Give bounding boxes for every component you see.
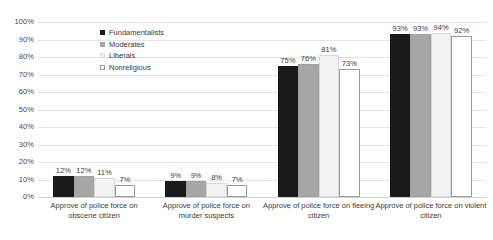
y-axis-tick: 80% [19, 53, 34, 61]
chart-legend: FundamentalistsModeratesLiberalsNonrelig… [100, 27, 210, 73]
bar-column: 12% [74, 22, 95, 197]
y-axis-tick: 60% [19, 88, 34, 96]
bar-liberals[interactable] [431, 33, 452, 198]
bar-column: 76% [298, 22, 319, 197]
bar-value-label: 93% [413, 24, 428, 33]
bar-column: 7% [227, 22, 248, 197]
legend-item-label: Fundamentalists [109, 28, 164, 37]
legend-swatch-icon [100, 30, 105, 35]
y-axis-tick: 70% [19, 71, 34, 79]
bar-liberals[interactable] [94, 178, 115, 197]
bar-value-label: 12% [56, 166, 71, 175]
y-axis-tick: 100% [14, 18, 34, 26]
bar-column: 81% [319, 22, 340, 197]
bar-liberals[interactable] [319, 55, 340, 197]
legend-swatch-icon [100, 65, 105, 70]
legend-swatch-icon [100, 42, 105, 47]
legend-item-fundamentalists[interactable]: Fundamentalists [100, 27, 210, 39]
x-axis-category-label: Approve of police force on murder suspec… [150, 201, 262, 220]
bar-group-bars: 93%93%94%92% [390, 22, 472, 197]
bar-nonreligious[interactable] [115, 185, 136, 197]
bar-value-label: 81% [321, 45, 336, 54]
legend-swatch-icon [100, 53, 105, 58]
bar-value-label: 9% [191, 171, 202, 180]
bar-value-label: 7% [232, 175, 243, 184]
bar-value-label: 92% [454, 26, 469, 35]
bar-value-label: 11% [97, 168, 111, 177]
x-axis-category-label: Approve of police force on fleeing citiz… [263, 201, 375, 220]
y-axis-tick: 50% [19, 106, 34, 114]
bar-value-label: 76% [301, 54, 316, 63]
legend-item-moderates[interactable]: Moderates [100, 39, 210, 51]
bar-group-bars: 75%76%81%73% [278, 22, 360, 197]
bar-fundamentalists[interactable] [390, 34, 411, 197]
bar-fundamentalists[interactable] [53, 176, 74, 197]
legend-item-label: Liberals [109, 51, 135, 60]
bar-column: 73% [339, 22, 360, 197]
bar-value-label: 12% [76, 166, 91, 175]
bar-value-label: 93% [393, 24, 408, 33]
bar-nonreligious[interactable] [227, 185, 248, 197]
bar-value-label: 7% [119, 175, 130, 184]
bar-moderates[interactable] [298, 64, 319, 197]
bar-nonreligious[interactable] [451, 36, 472, 197]
bar-fundamentalists[interactable] [278, 66, 299, 197]
bar-column: 93% [410, 22, 431, 197]
y-axis-tick: 40% [19, 123, 34, 131]
bar-column: 12% [53, 22, 74, 197]
bar-value-label: 8% [211, 173, 222, 182]
y-axis-tick: 90% [19, 36, 34, 44]
bar-group: 93%93%94%92% [390, 22, 472, 197]
bar-value-label: 75% [280, 56, 295, 65]
bar-nonreligious[interactable] [339, 69, 360, 197]
legend-item-label: Moderates [109, 40, 144, 49]
y-axis-tick: 10% [19, 176, 34, 184]
bar-value-label: 73% [342, 59, 357, 68]
legend-item-label: Nonreligious [109, 63, 151, 72]
bar-value-label: 94% [434, 23, 449, 32]
bar-column: 92% [451, 22, 472, 197]
x-axis-category-label: Approve of police force on obscene citiz… [38, 201, 150, 220]
y-axis-tick: 30% [19, 141, 34, 149]
bar-group: 75%76%81%73% [278, 22, 360, 197]
axis-baseline [38, 197, 487, 198]
bar-chart: 0%10%20%30%40%50%60%70%80%90%100% 12%12%… [0, 0, 493, 240]
bar-moderates[interactable] [410, 34, 431, 197]
bar-moderates[interactable] [74, 176, 95, 197]
bar-fundamentalists[interactable] [165, 181, 186, 197]
y-axis-tick: 20% [19, 158, 34, 166]
bar-moderates[interactable] [186, 181, 207, 197]
bar-value-label: 9% [170, 171, 181, 180]
legend-item-liberals[interactable]: Liberals [100, 50, 210, 62]
bar-liberals[interactable] [206, 183, 227, 197]
bar-column: 93% [390, 22, 411, 197]
legend-item-nonreligious[interactable]: Nonreligious [100, 62, 210, 74]
bar-column: 75% [278, 22, 299, 197]
y-axis-tick: 0% [23, 193, 34, 201]
x-axis-category-label: Approve of police force on violent citiz… [375, 201, 487, 220]
bar-column: 94% [431, 22, 452, 197]
y-axis: 0%10%20%30%40%50%60%70%80%90%100% [0, 22, 34, 197]
